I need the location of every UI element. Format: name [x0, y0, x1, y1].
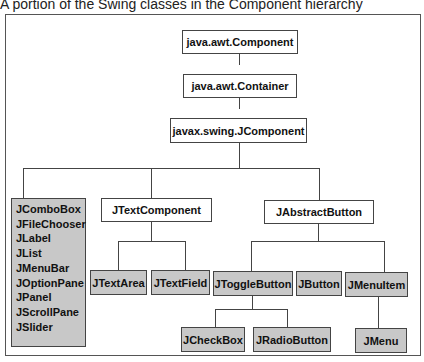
class-jslider: JSlider	[16, 320, 85, 335]
class-jcombobox: JComboBox	[16, 202, 85, 217]
node-jbutton: JButton	[296, 271, 342, 296]
connector	[118, 241, 119, 271]
node-jtogglebutton: JToggleButton	[213, 271, 293, 296]
node-jcheckbox: JCheckBox	[181, 327, 245, 352]
class-jscrollpane: JScrollPane	[16, 305, 85, 320]
node-jradiobutton: JRadioButton	[253, 327, 331, 352]
node-jmenuitem: JMenuItem	[345, 272, 408, 297]
node-jabstractbutton: JAbstractButton	[264, 200, 374, 224]
node-javax-swing-jcomponent: javax.swing.JComponent	[170, 118, 307, 143]
connector	[239, 142, 240, 168]
connector	[215, 309, 216, 329]
connector	[151, 221, 152, 241]
connector	[23, 168, 24, 198]
class-jfilechooser: JFileChooser	[16, 217, 85, 232]
connector	[319, 168, 320, 201]
node-java-awt-container: java.awt.Container	[183, 74, 297, 98]
class-jlabel: JLabel	[16, 231, 85, 246]
connector	[118, 241, 186, 242]
node-jtextarea: JTextArea	[90, 270, 147, 295]
connector	[251, 241, 252, 272]
class-jmenubar: JMenuBar	[16, 261, 85, 276]
connector	[251, 241, 384, 242]
node-jtextcomponent: JTextComponent	[101, 198, 212, 222]
connector	[378, 296, 379, 329]
node-java-awt-component: java.awt.Component	[182, 30, 298, 54]
connector	[287, 309, 288, 329]
connector	[23, 168, 320, 169]
connector	[384, 241, 385, 272]
jcomponent-subclass-list: JComboBox JFileChooser JLabel JList JMen…	[11, 198, 86, 347]
diagram-caption: A portion of the Swing classes in the Co…	[0, 0, 363, 12]
class-jlist: JList	[16, 246, 85, 261]
connector	[239, 53, 240, 65]
class-joptionpane: JOptionPane	[16, 276, 85, 291]
connector	[185, 241, 186, 271]
connector	[252, 295, 253, 309]
connector	[239, 97, 240, 109]
connector	[215, 309, 288, 310]
node-jtextfield: JTextField	[151, 270, 210, 295]
node-jmenu: JMenu	[355, 328, 407, 353]
connector	[318, 223, 319, 241]
class-jpanel: JPanel	[16, 290, 85, 305]
connector	[151, 168, 152, 199]
